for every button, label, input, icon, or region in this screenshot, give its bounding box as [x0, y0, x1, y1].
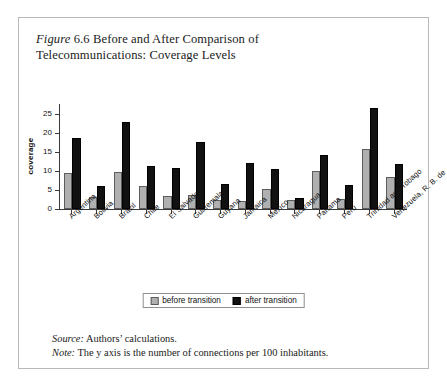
bar-after-transition — [196, 142, 204, 209]
y-tick-label: 15 — [43, 147, 52, 156]
bar-after-transition — [370, 108, 378, 209]
legend-swatch-before-icon — [150, 297, 158, 305]
y-tick: 25 — [55, 114, 59, 115]
bar-after-transition — [72, 138, 80, 209]
legend-swatch-after-icon — [233, 297, 241, 305]
bar-group — [134, 104, 159, 209]
bar-group — [60, 104, 85, 209]
y-axis-label: coverage — [26, 126, 35, 186]
note-line: Note: The y axis is the number of connec… — [52, 346, 402, 360]
y-tick-label: 10 — [43, 166, 52, 175]
bar-before-transition — [163, 196, 171, 209]
legend-label-after: after transition — [245, 296, 297, 305]
bar-before-transition — [139, 186, 147, 209]
y-tick-label: 25 — [43, 109, 52, 118]
bars-layer — [60, 104, 407, 209]
source-text: Authors’ calculations. — [86, 333, 177, 344]
note-label: Note: — [52, 347, 75, 358]
figure-footnotes: Source: Authors’ calculations. Note: The… — [52, 332, 402, 361]
bar-group — [333, 104, 358, 209]
bar-group — [283, 104, 308, 209]
y-tick: 10 — [55, 171, 59, 172]
legend-item-before: before transition — [150, 296, 221, 305]
bar-before-transition — [114, 172, 122, 209]
bar-group — [159, 104, 184, 209]
bar-before-transition — [362, 149, 370, 209]
bar-after-transition — [320, 155, 328, 209]
y-tick: 5 — [55, 190, 59, 191]
bar-group — [357, 104, 382, 209]
bar-after-transition — [122, 122, 130, 209]
chart-axes: 0510152025 ArgentinaBoliviaBrazilChileEl… — [59, 104, 407, 210]
bar-group — [110, 104, 135, 209]
figure-title-text: Before and After Comparison of Telecommu… — [36, 32, 259, 62]
figure-number: 6.6 — [74, 32, 90, 46]
y-tick: 15 — [55, 152, 59, 153]
source-line: Source: Authors’ calculations. — [52, 332, 402, 346]
y-tick: 0 — [55, 209, 59, 210]
y-tick-label: 5 — [48, 185, 52, 194]
legend-label-before: before transition — [162, 296, 221, 305]
note-text: The y axis is the number of connections … — [78, 347, 329, 358]
y-tick: 20 — [55, 133, 59, 134]
chart-plot-area: coverage 0510152025 ArgentinaBoliviaBraz… — [30, 96, 410, 216]
figure-title: Figure 6.6 Before and After Comparison o… — [36, 31, 366, 63]
legend-item-after: after transition — [233, 296, 297, 305]
chart-legend: before transition after transition — [142, 293, 305, 308]
bar-group — [234, 104, 259, 209]
y-tick-label: 20 — [43, 128, 52, 137]
source-label: Source: — [52, 333, 84, 344]
y-tick-label: 0 — [48, 204, 52, 213]
bar-before-transition — [64, 173, 72, 209]
figure-label: Figure — [36, 32, 70, 46]
